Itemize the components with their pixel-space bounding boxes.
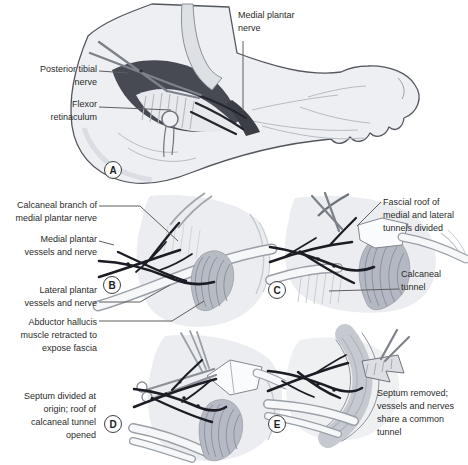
label-septum-divided: Septum divided at origin; roof of calcan… [0, 390, 96, 442]
panel-letter-b: B [103, 276, 121, 294]
panel-letter-c: C [268, 281, 286, 299]
label-abductor-hallucis: Abductor hallucis muscle retracted to ex… [0, 316, 97, 355]
label-septum-removed: Septum removed; vessels and nerves share… [377, 387, 468, 439]
label-medial-plantar-vessels: Medial plantar vessels and nerve [0, 233, 97, 259]
label-medial-plantar-nerve: Medial plantar nerve [238, 9, 348, 35]
panel-b-illustration [98, 193, 272, 327]
tarsal-tunnel-release-figure: Medial plantar nerve Posterior tibial ne… [0, 0, 468, 465]
label-posterior-tibial-nerve: Posterior tibial nerve [10, 63, 97, 89]
panel-letter-e: E [268, 415, 286, 433]
label-calcaneal-tunnel: Calcaneal tunnel [401, 268, 467, 294]
panel-d-illustration [133, 331, 286, 461]
label-lateral-plantar-vessels: Lateral plantar vessels and nerve [0, 284, 97, 310]
label-flexor-retinaculum: Flexor retinaculum [10, 98, 97, 124]
label-calcaneal-branch: Calcaneal branch of medial plantar nerve [0, 199, 97, 225]
label-fascial-roof: Fascial roof of medial and lateral tunne… [383, 196, 468, 235]
leader-medial-plantar-vessels [99, 241, 114, 245]
panel-letter-a: A [104, 161, 122, 179]
panel-letter-d: D [104, 415, 122, 433]
